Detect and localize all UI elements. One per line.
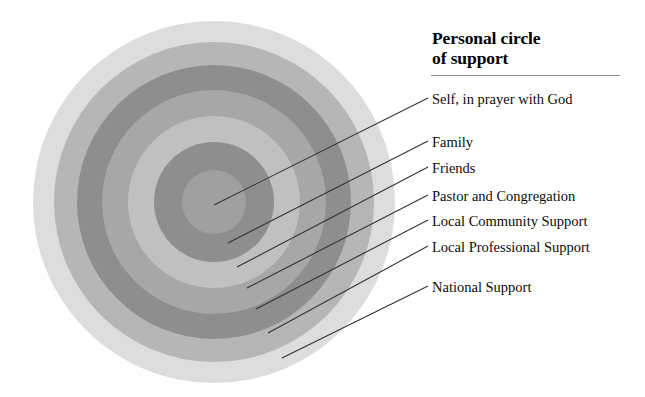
label-local-community-support: Local Community Support xyxy=(432,213,587,229)
label-national-support: National Support xyxy=(432,279,531,295)
label-friends: Friends xyxy=(432,160,476,176)
label-pastor-and-congregation: Pastor and Congregation xyxy=(432,188,575,204)
ring-1-self-in-prayer-with-god xyxy=(182,170,246,234)
personal-circle-of-support-figure: Personal circle of support Personal circ… xyxy=(0,0,645,397)
label-local-professional-support: Local Professional Support xyxy=(432,239,590,255)
figure-title-text-line-2: of support xyxy=(432,48,508,68)
figure-title: Personal circle of support Personal circ… xyxy=(432,28,632,68)
label-self-in-prayer-with-god: Self, in prayer with God xyxy=(432,91,573,107)
figure-title-text-line-1: Personal circle xyxy=(432,28,540,48)
label-family: Family xyxy=(432,134,473,150)
title-divider xyxy=(431,75,620,76)
